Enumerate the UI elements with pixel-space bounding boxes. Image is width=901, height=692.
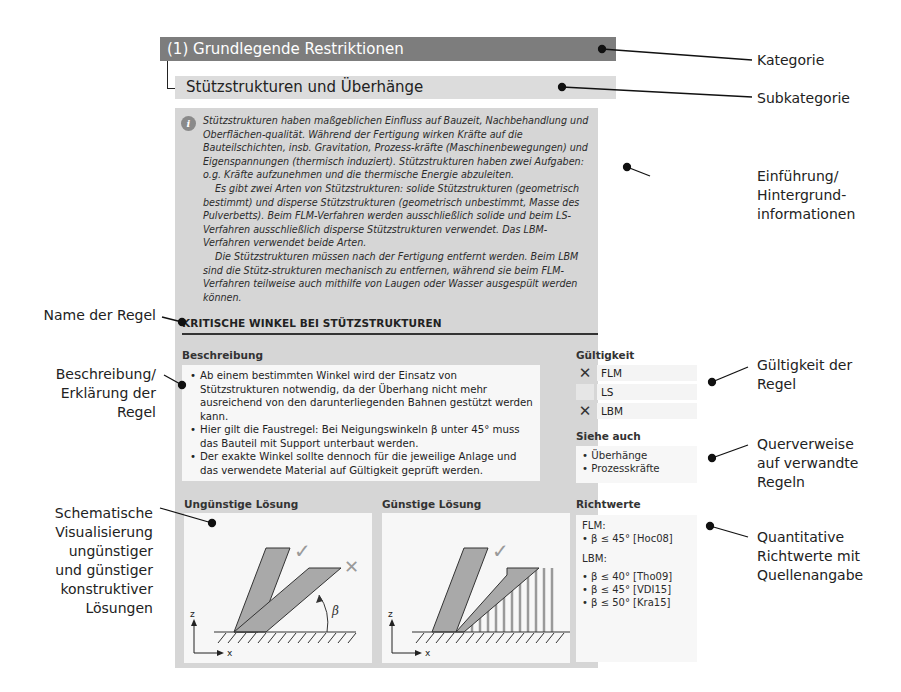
callout-line: Beschreibung/: [0, 365, 156, 384]
callout-line: auf verwandte: [757, 454, 858, 473]
callout-line: Regel: [0, 403, 156, 422]
callout-line: ungünstiger: [0, 542, 153, 561]
callout-line: Schematische: [0, 504, 153, 523]
callout-line: Quantitative: [757, 528, 863, 547]
callout-cross-references: Querverweise auf verwandte Regeln: [757, 435, 858, 492]
callout-visualization: Schematische Visualisierung ungünstiger …: [0, 504, 153, 618]
callout-line: Erklärung der: [0, 384, 156, 403]
callout-line: Visualisierung: [0, 523, 153, 542]
callout-line: Quellenangabe: [757, 566, 863, 585]
callout-line: Regel: [757, 375, 852, 394]
callout-line: Gültigkeit der: [757, 356, 852, 375]
callout-line: und günstiger: [0, 561, 153, 580]
callout-line: Regeln: [757, 473, 858, 492]
callout-rule-name: Name der Regel: [0, 306, 156, 325]
callout-validity: Gültigkeit der Regel: [757, 356, 852, 394]
callout-guide-values: Quantitative Richtwerte mit Quellenangab…: [757, 528, 863, 585]
callout-line: Querverweise: [757, 435, 858, 454]
callout-line: Einführung/: [757, 167, 855, 186]
callout-line: Hintergrund-: [757, 186, 855, 205]
callout-description: Beschreibung/ Erklärung der Regel: [0, 365, 156, 422]
callout-subcategory: Subkategorie: [757, 89, 850, 108]
callout-line: konstruktiver: [0, 580, 153, 599]
callout-category: Kategorie: [757, 51, 824, 70]
callout-line: Lösungen: [0, 599, 153, 618]
callout-introduction: Einführung/ Hintergrund- informationen: [757, 167, 855, 224]
callout-line: informationen: [757, 205, 855, 224]
callout-line: Richtwerte mit: [757, 547, 863, 566]
